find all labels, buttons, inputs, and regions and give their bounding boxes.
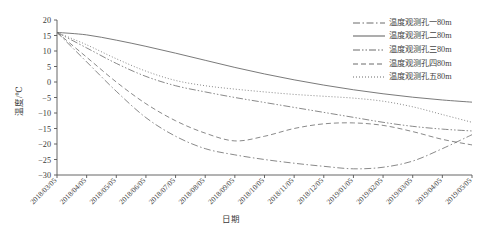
legend-item-3[interactable]: 温度观测孔三80m [352,43,478,57]
y-tick-label: −25 [38,156,51,165]
legend-line-swatch [352,18,386,28]
legend-item-label: 温度观测孔五80m [386,72,452,82]
legend-line-swatch [352,31,386,41]
y-axis-title: 温度/℃ [12,86,24,116]
legend-item-4[interactable]: 温度观测孔四80m [352,57,478,71]
x-tick-label: 2018/12/05 [295,176,325,206]
legend-item-label: 温度观测孔二80m [386,31,452,41]
x-tick-label: 2019/05/05 [443,176,473,206]
y-tick-label: 10 [43,47,51,56]
x-tick-label: 2019/04/05 [414,176,444,206]
temperature-line-chart: 20151050−5−10−15−20−25−30 2018/03/052018… [0,0,480,233]
y-tick-label: 20 [43,16,51,25]
x-tick-label: 2019/01/05 [325,176,355,206]
x-axis-ticks: 2018/03/052018/04/052018/05/052018/06/05… [28,175,473,206]
y-tick-label: −20 [38,140,51,149]
x-tick-label: 2018/05/05 [88,176,118,206]
y-tick-label: 0 [47,78,51,87]
y-tick-label: 5 [47,63,51,72]
x-tick-label: 2018/10/05 [236,176,266,206]
y-tick-label: −10 [38,109,51,118]
x-tick-label: 2018/08/05 [176,176,206,206]
x-tick-label: 2018/09/05 [206,176,236,206]
x-axis-title: 日期 [222,212,240,224]
chart-legend: 温度观测孔一80m温度观测孔二80m温度观测孔三80m温度观测孔四80m温度观测… [352,16,478,84]
legend-line-swatch [352,45,386,55]
legend-item-label: 温度观测孔四80m [386,59,452,69]
legend-item-2[interactable]: 温度观测孔二80m [352,30,478,44]
legend-line-swatch [352,59,386,69]
y-tick-label: 15 [43,32,51,41]
legend-item-label: 温度观测孔三80m [386,45,452,55]
x-tick-label: 2018/03/05 [28,176,58,206]
x-tick-label: 2019/03/05 [384,176,414,206]
x-tick-label: 2018/04/05 [58,176,88,206]
legend-item-label: 温度观测孔一80m [386,18,452,28]
x-tick-label: 2018/11/05 [266,176,296,206]
legend-item-5[interactable]: 温度观测孔五80m [352,70,478,84]
y-axis-ticks: 20151050−5−10−15−20−25−30 [38,16,57,180]
legend-item-1[interactable]: 温度观测孔一80m [352,16,478,30]
y-tick-label: −15 [38,125,51,134]
y-tick-label: −5 [42,94,51,103]
legend-line-swatch [352,72,386,82]
x-tick-label: 2019/02/05 [354,176,384,206]
x-tick-label: 2018/07/05 [147,176,177,206]
x-tick-label: 2018/06/05 [117,176,147,206]
